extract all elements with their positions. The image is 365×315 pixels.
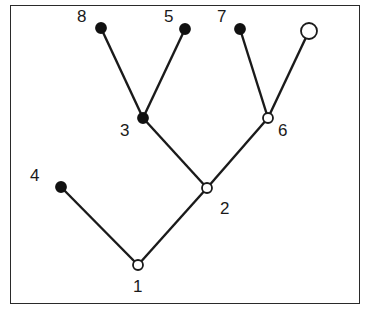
edge-2-3: [143, 118, 207, 188]
node-label-6: 6: [278, 122, 287, 139]
node-label-8: 8: [77, 8, 86, 25]
node-label-5: 5: [164, 8, 173, 25]
edge-1-2: [138, 188, 207, 265]
edge-3-8: [101, 28, 143, 118]
node-top-right-open-circle-icon: [301, 23, 317, 39]
node-6-open-circle-icon: [263, 113, 273, 123]
node-8-filled-circle-icon: [96, 23, 106, 33]
node-label-3: 3: [120, 122, 129, 139]
edge-1-4: [61, 187, 138, 265]
node-label-4: 4: [30, 167, 39, 184]
node-label-1: 1: [133, 278, 142, 295]
node-1-open-circle-icon: [133, 260, 143, 270]
tree-edges: [61, 28, 309, 265]
edge-6-top-right: [268, 31, 309, 118]
node-2-open-circle-icon: [202, 183, 212, 193]
node-4-filled-circle-icon: [56, 182, 66, 192]
node-7-filled-circle-icon: [235, 24, 245, 34]
node-label-7: 7: [217, 8, 226, 25]
node-3-filled-circle-icon: [138, 113, 148, 123]
node-label-2: 2: [220, 200, 229, 217]
tree-diagram: [0, 0, 365, 315]
edge-3-5: [143, 29, 185, 118]
edge-2-6: [207, 118, 268, 188]
node-5-filled-circle-icon: [180, 24, 190, 34]
edge-6-7: [240, 29, 268, 118]
tree-nodes: [56, 23, 317, 270]
